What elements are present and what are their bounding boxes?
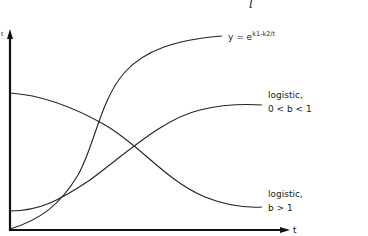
figure-canvas: l t t y = ek1-k2/t logistic, 0 < b < 1 l… bbox=[0, 0, 368, 236]
exponential-label-exponent: k1-k2/t bbox=[252, 30, 275, 38]
logistic-falling-label-line1: logistic, bbox=[268, 189, 303, 199]
x-axis-label: t bbox=[293, 225, 297, 235]
logistic-rising-curve bbox=[10, 105, 262, 211]
exponential-label: y = ek1-k2/t bbox=[228, 30, 275, 42]
top-fragment-text: l bbox=[249, 0, 253, 11]
exponential-label-base: y = e bbox=[228, 32, 253, 42]
logistic-rising-label-line2: 0 < b < 1 bbox=[268, 104, 312, 114]
x-axis-arrow-icon bbox=[280, 227, 290, 233]
logistic-falling-curve bbox=[10, 93, 262, 207]
logistic-falling-label-line2: b > 1 bbox=[268, 203, 293, 213]
logistic-rising-label-line1: logistic, bbox=[268, 90, 303, 100]
y-axis-label: t bbox=[1, 30, 4, 37]
y-axis-arrow-icon bbox=[7, 29, 13, 39]
